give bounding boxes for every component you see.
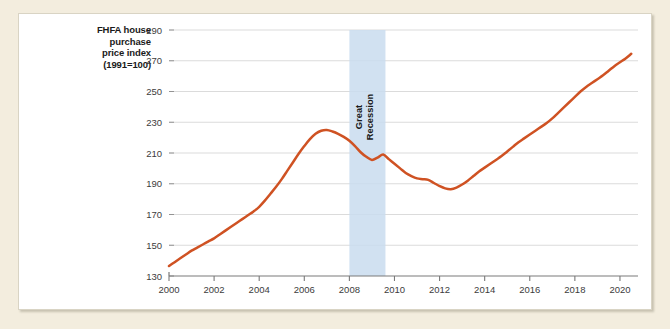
x-tick-label: 2008 <box>339 284 360 295</box>
y-tick-label: 270 <box>146 55 162 66</box>
x-tick-label: 2014 <box>474 284 495 295</box>
y-tick-label: 150 <box>146 240 162 251</box>
line-chart: 130150170190210230250270290 200020022004… <box>19 14 653 311</box>
y-tick-label: 130 <box>146 271 162 282</box>
recession-band <box>349 30 385 276</box>
chart-panel: FHFA house purchase price index (1991=10… <box>18 13 652 310</box>
x-tick-label: 2020 <box>609 284 630 295</box>
x-tick-label: 2006 <box>294 284 315 295</box>
recession-label-line: Great <box>354 105 364 129</box>
recession-label-line: Recession <box>365 93 375 140</box>
y-tick-label: 290 <box>146 25 162 36</box>
x-tick-label: 2012 <box>429 284 450 295</box>
y-tick-label: 230 <box>146 117 162 128</box>
y-tick-label: 250 <box>146 86 162 97</box>
x-tick-label: 2016 <box>519 284 540 295</box>
y-tick-label: 210 <box>146 148 162 159</box>
y-tick-label: 190 <box>146 178 162 189</box>
gridlines <box>169 30 638 276</box>
x-tick-label: 2010 <box>384 284 405 295</box>
figure-background: FHFA house purchase price index (1991=10… <box>0 0 670 329</box>
x-tick-label: 2002 <box>204 284 225 295</box>
y-tick-label: 170 <box>146 209 162 220</box>
x-tick-label: 2004 <box>249 284 270 295</box>
y-tick-labels: 130150170190210230250270290 <box>146 25 162 282</box>
data-series <box>169 54 631 266</box>
x-axis <box>169 272 638 281</box>
x-tick-label: 2000 <box>158 284 179 295</box>
x-tick-label: 2018 <box>564 284 585 295</box>
x-tick-labels: 2000200220042006200820102012201420162018… <box>158 284 630 295</box>
